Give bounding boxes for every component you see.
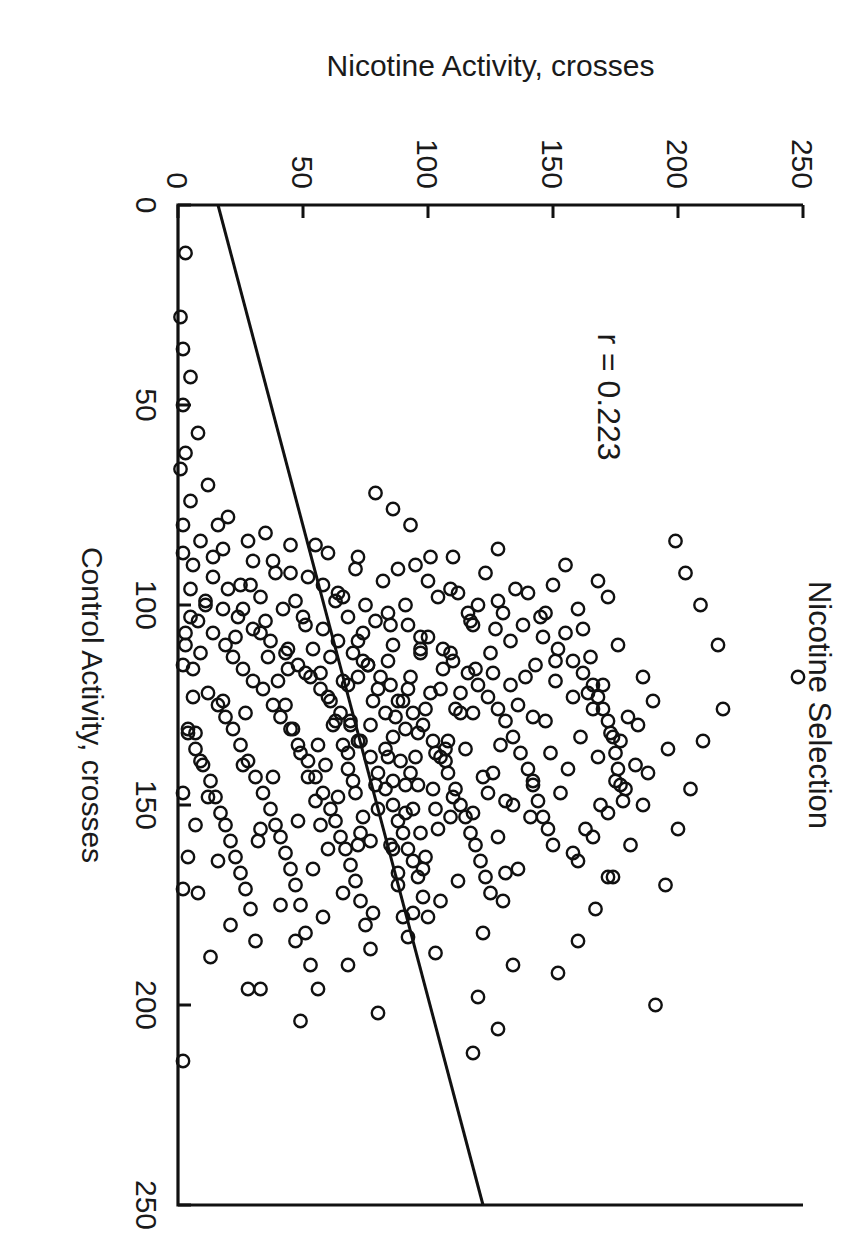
y-tick-label: 50 xyxy=(286,156,319,189)
chart-title: Nicotine Selection xyxy=(802,581,837,829)
x-tick-label: 150 xyxy=(130,780,163,830)
y-tick-label: 0 xyxy=(161,172,194,189)
x-axis-label: Control Activity, crosses xyxy=(76,547,109,863)
x-tick-label: 50 xyxy=(130,388,163,421)
y-tick-label: 200 xyxy=(661,139,694,189)
rotated-figure-wrapper: Nicotine Selection0501001502002500501001… xyxy=(0,0,843,1249)
x-tick-label: 250 xyxy=(130,1180,163,1230)
x-tick-label: 0 xyxy=(130,197,163,214)
y-axis-label: Nicotine Activity, crosses xyxy=(327,49,655,82)
y-tick-label: 100 xyxy=(411,139,444,189)
y-tick-label: 250 xyxy=(786,139,819,189)
x-tick-label: 100 xyxy=(130,580,163,630)
x-tick-label: 200 xyxy=(130,980,163,1030)
correlation-annotation: r = 0.223 xyxy=(591,333,627,460)
y-tick-label: 150 xyxy=(536,139,569,189)
scatter-chart: Nicotine Selection0501001502002500501001… xyxy=(0,0,843,1249)
